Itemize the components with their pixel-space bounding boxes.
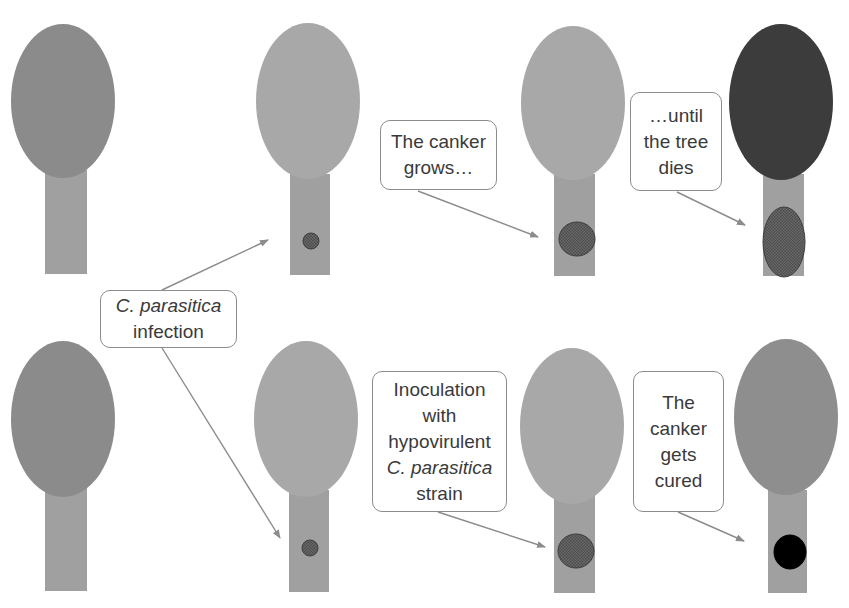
callout-line: …until xyxy=(649,103,703,129)
callout-line: cured xyxy=(655,468,703,494)
callout-tree-dies: …untilthe treedies xyxy=(630,92,722,191)
canker xyxy=(558,534,594,568)
canker xyxy=(302,540,318,556)
crown xyxy=(256,23,360,179)
tree-top-3 xyxy=(521,26,625,276)
crown xyxy=(520,348,624,504)
tree-bottom-4 xyxy=(734,339,838,593)
callout-cured: Thecankergetscured xyxy=(633,371,724,512)
canker xyxy=(559,222,595,256)
callout-line: dies xyxy=(659,155,694,181)
callout-line: hypovirulent xyxy=(388,429,490,455)
tree-top-1 xyxy=(11,24,115,274)
callout-line: grows… xyxy=(404,155,474,181)
crown xyxy=(254,341,358,497)
crown xyxy=(11,341,115,497)
crown xyxy=(11,24,115,178)
callout-line: canker xyxy=(650,416,707,442)
tree-top-2 xyxy=(256,23,360,275)
canker xyxy=(763,207,805,277)
cured-canker xyxy=(774,535,806,569)
callout-line: The canker xyxy=(391,129,486,155)
crown xyxy=(729,24,833,180)
crown xyxy=(521,26,625,180)
tree-top-4 xyxy=(729,24,833,277)
tree-bottom-2 xyxy=(254,341,358,592)
arrow-infection-to-top xyxy=(162,240,268,290)
callout-line: the tree xyxy=(644,129,708,155)
trunk xyxy=(45,170,87,274)
callout-line: The xyxy=(662,390,695,416)
callout-infection: C. parasiticainfection xyxy=(100,290,237,348)
callout-line: Inoculation xyxy=(394,377,486,403)
callout-line: gets xyxy=(661,442,697,468)
callout-line: C. parasitica xyxy=(116,293,222,319)
callout-line: C. parasitica xyxy=(387,455,493,481)
callout-canker-grows: The cankergrows… xyxy=(380,120,497,190)
crown xyxy=(734,339,838,495)
callout-inoculation: InoculationwithhypovirulentC. parasitica… xyxy=(372,371,507,512)
trunk xyxy=(290,174,330,275)
callout-line: infection xyxy=(133,319,204,345)
callout-line: strain xyxy=(416,481,462,507)
trunk xyxy=(45,488,87,591)
callout-line: with xyxy=(423,403,457,429)
tree-bottom-1 xyxy=(11,341,115,591)
arrow-dies-to-canker xyxy=(677,192,745,225)
tree-bottom-3 xyxy=(520,348,624,593)
arrow-grows-to-canker xyxy=(418,191,538,237)
canker xyxy=(303,233,319,249)
arrow-cured-to-canker xyxy=(678,512,744,541)
arrow-inoculation-to-canker xyxy=(438,512,545,547)
